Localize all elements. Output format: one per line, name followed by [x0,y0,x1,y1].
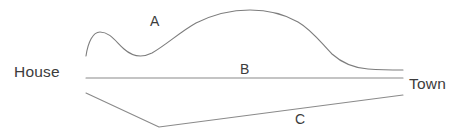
route-label-b: B [240,62,249,76]
route-label-c: C [295,112,305,126]
route-label-a: A [150,14,159,28]
route-paths-canvas [0,0,466,140]
node-label-house: House [14,64,60,80]
node-label-town: Town [409,76,446,92]
route-diagram: House Town A B C [0,0,466,140]
route-c-path [86,93,403,127]
